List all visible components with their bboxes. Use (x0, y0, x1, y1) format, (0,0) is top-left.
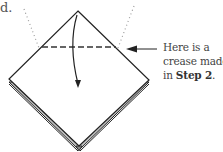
leader-arrow-icon (126, 46, 157, 53)
front-flap (9, 11, 149, 146)
callout-line-1: Here is a (163, 40, 223, 54)
callout-line-3-suffix: . (212, 69, 215, 81)
step-reference: Step 2 (176, 69, 212, 81)
crease-callout: Here is a crease made in Step 2. (163, 40, 223, 82)
callout-line-2: crease made (163, 54, 223, 68)
callout-line-3-prefix: in (163, 69, 176, 81)
callout-line-3: in Step 2. (163, 68, 223, 82)
previous-step-text-fragment: d. (0, 1, 12, 15)
